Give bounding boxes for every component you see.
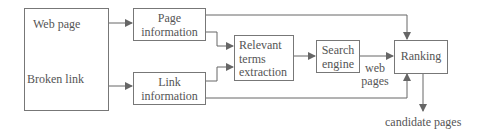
broken-link-label: Broken link: [27, 73, 84, 86]
relevant-terms-label-3: extraction: [239, 66, 287, 79]
ranking-label: Ranking: [394, 50, 448, 63]
relevant-terms-label-1: Relevant: [239, 39, 282, 52]
web-page-label: Web page: [33, 18, 80, 31]
search-engine-label-2: engine: [316, 58, 360, 71]
web-pages-label-2: pages: [360, 75, 390, 88]
page-information-label-1: Page: [133, 12, 206, 25]
candidate-pages-label: candidate pages: [385, 116, 461, 129]
link-information-label-1: Link: [133, 76, 206, 89]
page-information-label-2: information: [133, 26, 206, 39]
link-information-label-2: information: [133, 90, 206, 103]
search-engine-label-1: Search: [316, 44, 360, 57]
